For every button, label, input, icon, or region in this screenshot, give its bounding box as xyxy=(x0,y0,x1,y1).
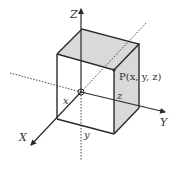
x-dimension-label: x xyxy=(63,95,69,106)
y-axis-label: Y xyxy=(160,116,169,129)
x-axis-label: X xyxy=(18,131,28,144)
dotted-y-extension-left xyxy=(10,73,81,92)
diagram-canvas: Z Y X P(x, y, z) x y z xyxy=(0,0,180,170)
y-dimension-label: y xyxy=(83,129,90,140)
z-axis-label: Z xyxy=(69,8,78,21)
coordinate-diagram: Z Y X P(x, y, z) x y z xyxy=(0,0,180,170)
origin-dot xyxy=(80,91,82,93)
point-p-label: P(x, y, z) xyxy=(119,71,162,82)
x-axis xyxy=(31,92,81,145)
point-p xyxy=(112,68,115,71)
z-dimension-label: z xyxy=(116,90,123,101)
